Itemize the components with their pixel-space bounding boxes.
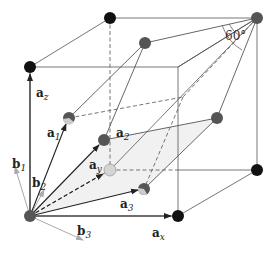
atom-top-back-left <box>104 12 116 24</box>
label-a2: a2 <box>116 127 130 142</box>
label-a3: a3 <box>120 198 134 213</box>
atom-top-mid <box>139 37 151 49</box>
atom-ax <box>172 210 184 222</box>
label-ax: ax <box>152 227 165 242</box>
atom-top-back-right <box>251 12 263 24</box>
label-az: az <box>36 87 49 102</box>
atom-origin <box>24 210 36 222</box>
atom-az <box>24 61 36 73</box>
label-a1: a1 <box>47 127 61 142</box>
atom-ay <box>104 164 116 176</box>
angle-label: 60° <box>225 30 246 42</box>
label-b2: b2 <box>32 177 46 192</box>
atom-right-back <box>251 164 263 176</box>
label-ay: ay <box>89 159 102 174</box>
lattice-diagram: 60° az a1 a2 ay a3 ax b1 b2 b3 <box>0 0 275 253</box>
atom-a2 <box>98 134 110 146</box>
atom-right-mid <box>211 112 223 124</box>
label-b3: b3 <box>77 225 91 240</box>
label-b1: b1 <box>12 158 26 173</box>
